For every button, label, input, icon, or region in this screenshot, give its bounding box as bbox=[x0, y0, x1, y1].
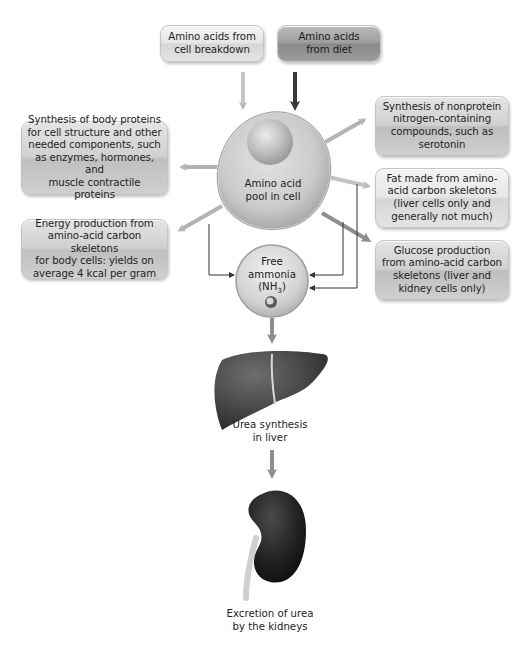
output-box-nonprotein: Synthesis of nonprotein nitrogen-contain… bbox=[375, 96, 509, 156]
arrow-to-energy bbox=[180, 206, 222, 230]
output-box-energy: Energy production from amino-acid carbon… bbox=[21, 219, 168, 279]
amino-acid-pool-cell bbox=[217, 112, 330, 230]
output-text-line: as enzymes, hormones, and bbox=[27, 152, 162, 177]
source-text-line: Amino acids from bbox=[168, 31, 255, 44]
output-text-line: nitrogen-containing bbox=[383, 113, 501, 126]
output-text-line: for cell structure and other bbox=[27, 127, 162, 140]
ammonia-formula: (NH3) bbox=[242, 281, 302, 298]
ammonia-label-line: Free bbox=[242, 256, 302, 269]
kidney-label-line: by the kidneys bbox=[216, 621, 324, 634]
liver-label-line: in liver bbox=[222, 432, 318, 445]
source-text-line: cell breakdown bbox=[168, 44, 255, 57]
source-box-diet: Amino acids from diet bbox=[277, 25, 381, 62]
ammonia-label-line: ammonia bbox=[242, 269, 302, 282]
output-text-line: kidney cells only) bbox=[382, 283, 502, 296]
output-text-line: from amino-acid carbon bbox=[382, 257, 502, 270]
output-text-line: Synthesis of body proteins bbox=[27, 114, 162, 127]
output-text-line: Energy production from bbox=[27, 218, 162, 231]
output-box-body-proteins: Synthesis of body proteins for cell stru… bbox=[21, 121, 168, 195]
line-energy-to-ammonia bbox=[209, 224, 234, 275]
kidney-label: Excretion of urea by the kidneys bbox=[216, 608, 324, 633]
arrow-to-glucose bbox=[322, 213, 368, 240]
source-text-line: from diet bbox=[298, 44, 359, 57]
output-text-line: Glucose production bbox=[382, 245, 502, 258]
source-text-line: Amino acids bbox=[298, 31, 359, 44]
line-nonprotein-to-ammonia bbox=[310, 222, 343, 275]
source-box-cell-breakdown: Amino acids from cell breakdown bbox=[160, 25, 264, 62]
liver-label: Urea synthesis in liver bbox=[222, 419, 318, 444]
output-text-line: compounds, such as bbox=[383, 126, 501, 139]
kidney-label-line: Excretion of urea bbox=[216, 608, 324, 621]
pool-label-line: pool in cell bbox=[236, 191, 310, 204]
output-text-line: serotonin bbox=[383, 139, 501, 152]
output-text-line: Synthesis of nonprotein bbox=[383, 101, 501, 114]
output-text-line: generally not much) bbox=[386, 211, 497, 224]
pool-label-line: Amino acid bbox=[236, 178, 310, 191]
output-text-line: acid carbon skeletons bbox=[386, 185, 497, 198]
arrow-to-nonprotein bbox=[322, 120, 364, 144]
output-text-line: muscle contractile proteins bbox=[27, 177, 162, 202]
arrow-to-fat bbox=[328, 177, 368, 186]
pool-label: Amino acid pool in cell bbox=[236, 178, 310, 203]
formula-suffix: ) bbox=[282, 281, 286, 292]
output-text-line: (liver cells only and bbox=[386, 198, 497, 211]
output-text-line: skeletons (liver and bbox=[382, 270, 502, 283]
liver-label-line: Urea synthesis bbox=[222, 419, 318, 432]
formula-prefix: (NH bbox=[258, 281, 277, 292]
kidney-illustration bbox=[246, 491, 306, 598]
nucleus bbox=[247, 119, 293, 165]
output-text-line: needed components, such bbox=[27, 139, 162, 152]
output-box-fat: Fat made from amino- acid carbon skeleto… bbox=[375, 168, 509, 228]
output-text-line: Fat made from amino- bbox=[386, 173, 497, 186]
output-text-line: average 4 kcal per gram bbox=[27, 268, 162, 281]
output-text-line: for body cells: yields on bbox=[27, 255, 162, 268]
output-box-glucose: Glucose production from amino-acid carbo… bbox=[375, 240, 509, 300]
ammonia-label: Free ammonia (NH3) bbox=[242, 256, 302, 298]
output-text-line: amino-acid carbon skeletons bbox=[27, 230, 162, 255]
